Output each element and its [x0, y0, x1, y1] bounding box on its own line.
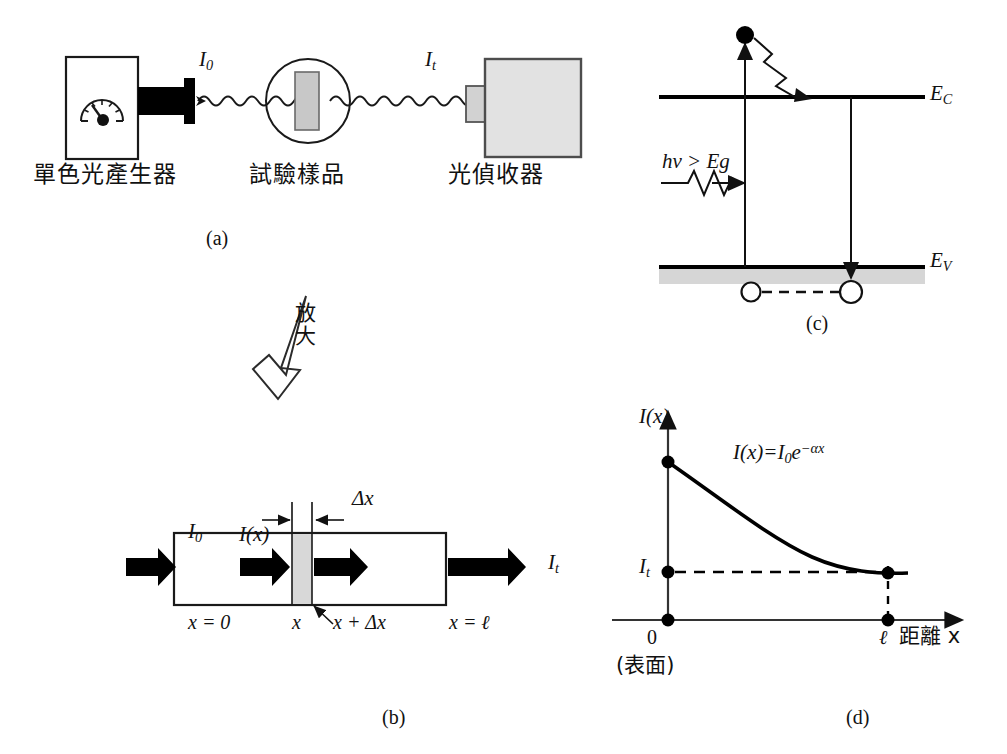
monochromator-body [66, 57, 138, 159]
point-I0 [662, 456, 675, 469]
slab-slice [292, 534, 312, 604]
transmitted-intensity-label: It [425, 49, 436, 72]
y-tick-It: It [639, 556, 650, 579]
panel-b-slab [126, 502, 526, 624]
slab-mid-label: I(x) [239, 524, 269, 545]
x-tick-surface: (表面) [616, 655, 674, 676]
light-nozzle [138, 78, 195, 124]
valence-band-shade [659, 268, 925, 284]
tick-x-plus-dx: x + Δx [333, 612, 386, 632]
hole-circle-icon [742, 283, 761, 302]
point-It [662, 566, 675, 579]
y-axis-label: I(x) [639, 406, 669, 427]
sample-specimen [295, 72, 319, 130]
panel-a-apparatus [66, 57, 581, 159]
caption-a: (a) [206, 228, 228, 248]
decay-curve [668, 462, 908, 573]
decay-equation: I(x)=I0e−αx [733, 441, 824, 465]
slab-output-label: It [548, 552, 559, 575]
x-tick-ell: ℓ [879, 627, 887, 647]
caption-b: (b) [382, 707, 405, 727]
xdx-pointer [314, 606, 333, 624]
hole-circle-icon [840, 281, 862, 303]
conduction-band-label: EC [930, 83, 952, 106]
source-label: 單色光產生器 [33, 163, 177, 186]
valence-band-label: EV [930, 250, 952, 273]
detector-label: 光偵收器 [448, 163, 544, 186]
incident-intensity-label: I0 [199, 49, 213, 72]
tick-x-zero: x = 0 [188, 612, 230, 632]
magnify-label: 放大 [294, 302, 316, 347]
tick-x-ell: x = ℓ [449, 612, 490, 632]
x-tick-zero: 0 [647, 627, 657, 647]
tick-x: x [292, 612, 301, 632]
transmitted-beam-wave [330, 97, 474, 106]
photodetector-body [466, 59, 581, 157]
figure-canvas [0, 0, 1007, 754]
thermalization-zigzag [754, 38, 800, 100]
photon-energy-label: hv > Eg [662, 151, 730, 172]
sample-label: 試驗樣品 [249, 163, 345, 186]
slab-input-label: I0 [188, 521, 202, 544]
x-axis-label: 距離 x [899, 626, 960, 647]
delta-x-label: Δx [352, 488, 374, 509]
electron-dot-icon [736, 26, 754, 44]
caption-d: (d) [846, 707, 869, 727]
caption-c: (c) [806, 313, 828, 333]
point-ell-axis [882, 614, 895, 627]
point-origin [662, 614, 675, 627]
